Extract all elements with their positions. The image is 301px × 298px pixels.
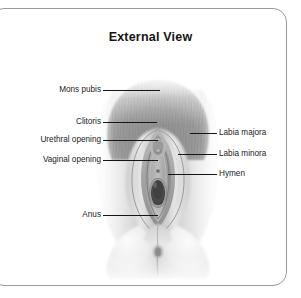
label-clitoris: Clitoris	[18, 117, 101, 127]
leader-urethral-opening	[103, 140, 158, 141]
leader-clitoris	[103, 122, 157, 123]
label-mons-pubis: Mons pubis	[18, 85, 101, 95]
label-hymen: Hymen	[219, 169, 245, 179]
external-view-illustration	[88, 72, 228, 280]
label-vaginal-opening: Vaginal opening	[5, 155, 101, 165]
figure-panel: External View	[0, 0, 301, 298]
leader-mons-pubis	[103, 90, 160, 91]
label-labia-majora: Labia majora	[219, 128, 266, 138]
label-anus: Anus	[28, 210, 101, 220]
vaginal-opening-region	[149, 178, 167, 208]
leader-hymen	[168, 174, 217, 175]
leader-labia-majora	[190, 133, 217, 134]
leader-anus	[103, 215, 158, 216]
label-labia-minora: Labia minora	[219, 149, 266, 159]
urethral-opening-region	[156, 169, 161, 173]
leader-labia-minora	[178, 154, 217, 155]
label-urethral-opening: Urethral opening	[5, 135, 101, 145]
leader-vaginal-opening	[103, 160, 158, 161]
figure-title: External View	[0, 30, 301, 44]
